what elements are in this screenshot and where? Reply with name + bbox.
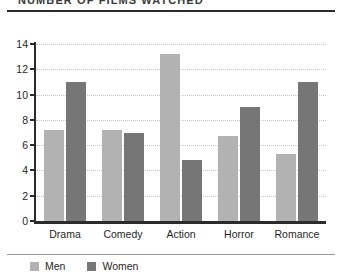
bar-horror-men xyxy=(218,136,238,221)
x-axis-label-comedy: Comedy xyxy=(94,228,152,240)
footer-divider xyxy=(7,254,335,255)
bar-group xyxy=(36,44,94,221)
bars-layer xyxy=(36,44,326,221)
header-divider xyxy=(7,10,335,12)
bar-group xyxy=(268,44,326,221)
y-axis-tick-label: 0 xyxy=(2,216,28,226)
x-axis-label-horror: Horror xyxy=(210,228,268,240)
x-axis-line xyxy=(34,221,326,224)
y-axis-tick-label: 14 xyxy=(2,39,28,49)
y-axis-tick-label: 8 xyxy=(2,115,28,125)
bar-horror-women xyxy=(240,107,260,221)
bar-drama-women xyxy=(66,82,86,221)
bar-chart-figure: NUMBER OF FILMS WATCHED 02468101214 Dram… xyxy=(0,0,342,280)
chart-title-text: NUMBER OF FILMS WATCHED xyxy=(18,0,318,6)
x-axis-label-romance: Romance xyxy=(268,228,326,240)
bar-comedy-women xyxy=(124,133,144,222)
bar-group xyxy=(210,44,268,221)
chart-legend: MenWomen xyxy=(30,261,138,272)
legend-item-women[interactable]: Women xyxy=(87,261,138,272)
y-axis-labels: 02468101214 xyxy=(0,44,28,221)
y-axis-tick-label: 2 xyxy=(2,191,28,201)
bar-romance-men xyxy=(276,154,296,221)
legend-label: Women xyxy=(102,261,138,272)
x-axis-label-drama: Drama xyxy=(36,228,94,240)
bar-group xyxy=(152,44,210,221)
legend-item-men[interactable]: Men xyxy=(30,261,65,272)
legend-label: Men xyxy=(45,261,65,272)
chart-title-clipped: NUMBER OF FILMS WATCHED xyxy=(18,0,318,6)
y-axis-tick-label: 6 xyxy=(2,140,28,150)
bar-romance-women xyxy=(298,82,318,221)
y-axis-tick-label: 12 xyxy=(2,64,28,74)
bar-action-men xyxy=(160,54,180,221)
x-axis-label-action: Action xyxy=(152,228,210,240)
bar-group xyxy=(94,44,152,221)
y-axis-tick-label: 4 xyxy=(2,165,28,175)
bar-action-women xyxy=(182,160,202,221)
bar-drama-men xyxy=(44,130,64,221)
legend-swatch-icon xyxy=(87,262,96,271)
legend-swatch-icon xyxy=(30,262,39,271)
bar-comedy-men xyxy=(102,130,122,221)
y-axis-tick-label: 10 xyxy=(2,90,28,100)
x-axis-labels: DramaComedyActionHorrorRomance xyxy=(36,228,326,244)
plot-area: 02468101214 xyxy=(36,44,326,221)
